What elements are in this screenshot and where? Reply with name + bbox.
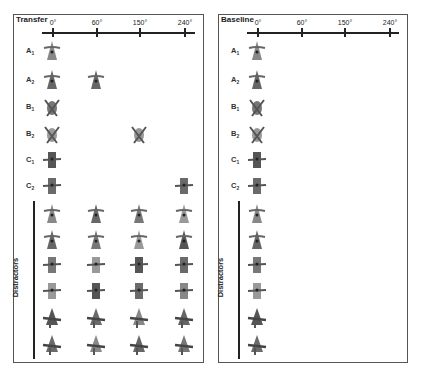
distractor-object-image (174, 203, 194, 225)
distractor-object-image (86, 229, 106, 251)
object-image (42, 40, 62, 62)
distractor-object-image (42, 334, 62, 356)
object-image (247, 40, 267, 62)
axis-tick-label: 60° (297, 19, 308, 26)
row-label: C1 (231, 155, 239, 166)
axis-tick (389, 28, 391, 37)
panel-title: Transfer (16, 15, 48, 24)
distractor-object-image (42, 280, 62, 302)
axis-tick-label: 240° (383, 19, 397, 26)
distractor-object-image (174, 280, 194, 302)
row-label-subscript: 1 (31, 106, 34, 112)
row-label: B1 (26, 102, 34, 113)
axis-tick (184, 28, 186, 37)
distractor-object-image (129, 334, 149, 356)
axis-tick-label: 150° (133, 19, 147, 26)
distractor-object-image (247, 203, 267, 225)
distractor-object-image (86, 280, 106, 302)
distractor-object-image (247, 229, 267, 251)
row-label-subscript: 2 (236, 79, 239, 85)
distractor-object-image (86, 307, 106, 329)
distractor-object-image (247, 254, 267, 276)
row-label-subscript: 2 (31, 79, 34, 85)
distractor-object-image (86, 254, 106, 276)
object-image (247, 96, 267, 118)
object-image (247, 149, 267, 171)
row-label: A1 (231, 46, 239, 57)
row-label-subscript: 1 (31, 50, 34, 56)
axis-tick (139, 28, 141, 37)
panel-transfer: Transfer0°60°150°240°A1 A2 B1 B2 (13, 14, 204, 363)
axis-tick (52, 28, 54, 37)
distractor-object-image (42, 203, 62, 225)
distractor-object-image (247, 307, 267, 329)
axis-tick-label: 150° (338, 19, 352, 26)
object-image (42, 175, 62, 197)
row-label-subscript: 1 (236, 159, 239, 165)
distractor-object-image (42, 229, 62, 251)
axis-tick (301, 28, 303, 37)
axis-tick (344, 28, 346, 37)
angle-axis (247, 32, 399, 34)
object-image (42, 123, 62, 145)
axis-tick (96, 28, 98, 37)
row-label: B1 (231, 102, 239, 113)
row-label: A1 (26, 46, 34, 57)
distractor-object-image (129, 229, 149, 251)
distractor-object-image (129, 203, 149, 225)
row-label-subscript: 1 (236, 106, 239, 112)
row-label-subscript: 1 (31, 159, 34, 165)
row-label-subscript: 2 (236, 133, 239, 139)
distractor-object-image (86, 334, 106, 356)
row-label-subscript: 2 (31, 185, 34, 191)
distractor-object-image (247, 334, 267, 356)
panel-baseline: Baseline0°60°150°240°A1 A2 B1 B2 C1 (218, 14, 408, 363)
object-image (129, 123, 149, 145)
object-image (86, 69, 106, 91)
distractor-object-image (86, 203, 106, 225)
row-label: A2 (231, 75, 239, 86)
axis-tick-label: 0° (50, 19, 57, 26)
axis-tick (257, 28, 259, 37)
axis-tick-label: 0° (255, 19, 262, 26)
distractors-bracket (33, 201, 35, 359)
row-label: C1 (26, 155, 34, 166)
row-label-subscript: 2 (31, 133, 34, 139)
object-image (247, 69, 267, 91)
distractor-object-image (174, 307, 194, 329)
distractor-object-image (42, 307, 62, 329)
distractor-object-image (174, 254, 194, 276)
distractor-object-image (174, 229, 194, 251)
object-image (174, 175, 194, 197)
row-label-subscript: 1 (236, 50, 239, 56)
row-label: C2 (26, 181, 34, 192)
object-image (247, 175, 267, 197)
distractors-bracket (238, 201, 240, 359)
angle-axis (42, 32, 195, 34)
row-label: B2 (231, 129, 239, 140)
distractor-object-image (174, 334, 194, 356)
axis-tick-label: 240° (178, 19, 192, 26)
object-image (42, 96, 62, 118)
distractors-label: Distractors (216, 258, 225, 298)
axis-tick-label: 60° (92, 19, 103, 26)
row-label-subscript: 2 (236, 185, 239, 191)
panel-title: Baseline (221, 15, 254, 24)
distractor-object-image (42, 254, 62, 276)
row-label: C2 (231, 181, 239, 192)
distractors-label: Distractors (11, 258, 20, 298)
distractor-object-image (129, 254, 149, 276)
distractor-object-image (247, 280, 267, 302)
object-image (42, 69, 62, 91)
row-label: A2 (26, 75, 34, 86)
distractor-object-image (129, 280, 149, 302)
distractor-object-image (129, 307, 149, 329)
object-image (42, 149, 62, 171)
object-image (247, 123, 267, 145)
row-label: B2 (26, 129, 34, 140)
